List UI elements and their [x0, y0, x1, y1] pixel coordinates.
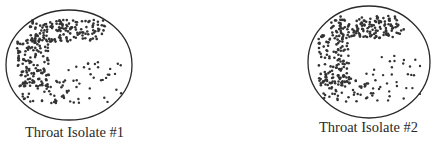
petri-dish-1-graphic [0, 0, 140, 125]
plate-2 [300, 0, 436, 125]
plate-1 [0, 0, 140, 125]
plate-1-label: Throat Isolate #1 [25, 124, 124, 141]
petri-dish-2-graphic [300, 0, 436, 125]
plate-2-label: Throat Isolate #2 [319, 119, 418, 136]
